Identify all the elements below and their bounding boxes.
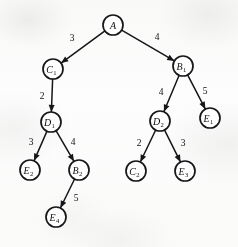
tree-node-c1[interactable]: C1 [43, 59, 63, 79]
edge-weight-a-b1: 4 [155, 32, 160, 42]
tree-node-e3[interactable]: E3 [175, 161, 195, 181]
edge-weight-d1-b2: 4 [71, 137, 76, 147]
tree-node-b2[interactable]: B2 [69, 160, 89, 180]
node-subscript-b2: 2 [79, 169, 82, 176]
node-subscript-d2: 2 [161, 120, 164, 127]
edge-weight-a-c1: 3 [70, 33, 75, 43]
edge-weight-d2-e3: 3 [181, 138, 186, 148]
node-subscript-e1: 1 [210, 117, 213, 124]
edge-weight-b1-d2: 4 [159, 87, 164, 97]
tree-node-a[interactable]: A [103, 15, 123, 35]
arrowheads-layer [34, 55, 205, 208]
nodes-layer: AC1B1D1D2E1E2B2C2E3E4 [20, 15, 220, 227]
node-subscript-c1: 1 [53, 68, 56, 75]
tree-node-e1[interactable]: E1 [200, 108, 220, 128]
tree-node-c2[interactable]: C2 [126, 161, 146, 181]
tree-edge-a-b1 [122, 30, 175, 61]
tree-node-b1[interactable]: B1 [173, 56, 193, 76]
tree-node-d2[interactable]: D2 [150, 111, 170, 131]
tree-node-e2[interactable]: E2 [20, 160, 40, 180]
node-subscript-d1: 1 [52, 121, 55, 128]
node-subscript-e2: 2 [30, 169, 33, 176]
edge-weight-b1-e1: 5 [203, 86, 208, 96]
tree-node-e4[interactable]: E4 [46, 207, 66, 227]
edge-weight-d2-c2: 2 [137, 138, 142, 148]
tree-diagram: AC1B1D1D2E1E2B2C2E3E4 3424534235 [0, 0, 238, 247]
graph-canvas: AC1B1D1D2E1E2B2C2E3E4 3424534235 [0, 0, 238, 247]
node-subscript-c2: 2 [136, 170, 139, 177]
tree-edge-a-c1 [61, 31, 105, 63]
edge-weight-d1-e2: 3 [29, 137, 34, 147]
arrowhead-b1-d2 [164, 104, 170, 112]
node-label-a: A [109, 20, 117, 31]
edge-weight-b2-e4: 5 [74, 193, 79, 203]
edge-weight-c1-d1: 2 [40, 91, 45, 101]
tree-node-d1[interactable]: D1 [41, 112, 61, 132]
node-subscript-b1: 1 [183, 65, 186, 72]
arrowhead-c1-d1 [49, 105, 55, 112]
arrowhead-a-c1 [61, 56, 69, 63]
